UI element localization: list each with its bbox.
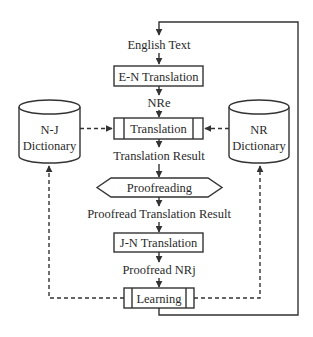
nj-dictionary-line1: N-J (40, 123, 58, 137)
node-jn-translation: J-N Translation (114, 233, 203, 252)
node-learning: Learning (124, 288, 194, 308)
en-translation-label: E-N Translation (118, 70, 199, 84)
node-en-translation: E-N Translation (114, 66, 203, 86)
flowchart-diagram: English Text E-N Translation NRe Transla… (0, 0, 313, 337)
learning-label: Learning (136, 292, 182, 306)
node-proofreading: Proofreading (97, 178, 222, 197)
node-translation: Translation (114, 118, 203, 139)
node-nr-dictionary: NR Dictionary (229, 100, 289, 163)
translation-label: Translation (130, 122, 187, 136)
node-nj-dictionary: N-J Dictionary (19, 100, 80, 163)
node-english-text: English Text (127, 38, 191, 52)
jn-translation-label: J-N Translation (120, 236, 198, 250)
node-proofread-nrj: Proofread NRj (122, 263, 195, 277)
nj-dictionary-line2: Dictionary (23, 139, 77, 153)
nr-dictionary-line1: NR (250, 123, 268, 137)
nr-dictionary-line2: Dictionary (232, 139, 286, 153)
node-proofread-translation-result: Proofread Translation Result (87, 207, 231, 221)
node-translation-result: Translation Result (113, 149, 205, 163)
node-nre: NRe (148, 96, 171, 110)
proofreading-label: Proofreading (127, 181, 193, 195)
